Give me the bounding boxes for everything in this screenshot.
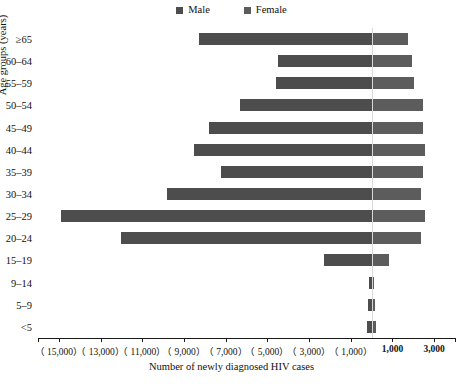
y-axis-tick-label: ≥65 bbox=[16, 34, 32, 45]
bar-female bbox=[373, 210, 425, 222]
legend-swatch-male bbox=[176, 7, 183, 14]
bar-male bbox=[194, 144, 371, 156]
bar-male bbox=[367, 321, 371, 333]
x-axis-tick bbox=[38, 338, 39, 342]
x-axis-tick bbox=[267, 338, 268, 342]
bar-row: 50–54 bbox=[38, 94, 455, 116]
x-axis-tick bbox=[455, 338, 456, 342]
bar-female bbox=[373, 277, 374, 289]
x-axis-tick-label: （ 9,000） bbox=[162, 344, 206, 358]
bar-female bbox=[373, 166, 423, 178]
legend-label-male: Male bbox=[188, 5, 210, 16]
y-axis-tick-label: 20–24 bbox=[6, 233, 32, 244]
bar-female bbox=[373, 77, 415, 89]
x-axis-tick bbox=[59, 338, 60, 342]
x-axis-tick bbox=[434, 338, 435, 342]
y-axis-tick-label: 35–39 bbox=[6, 166, 32, 177]
bar-female bbox=[373, 99, 423, 111]
x-axis-tick bbox=[184, 338, 185, 342]
y-axis-tick-label: 9–14 bbox=[11, 277, 32, 288]
bar-row: 60–64 bbox=[38, 50, 455, 72]
bar-female bbox=[373, 254, 390, 266]
bar-female bbox=[373, 144, 425, 156]
y-axis-tick-label: 30–34 bbox=[6, 189, 32, 200]
y-axis-tick-label: <5 bbox=[21, 321, 32, 332]
x-axis-title: Number of newly diagnosed HIV cases bbox=[0, 361, 463, 372]
x-axis-tick-label: （ 5,000） bbox=[245, 344, 289, 358]
bar-row: 15–19 bbox=[38, 249, 455, 271]
x-axis-tick-label: （ 11,000） bbox=[118, 344, 166, 358]
bar-male bbox=[278, 55, 372, 67]
bar-female bbox=[373, 55, 413, 67]
bar-female bbox=[373, 33, 408, 45]
x-axis-tick-label: （ 3,000） bbox=[287, 344, 331, 358]
bar-male bbox=[324, 254, 372, 266]
bar-row: 25–29 bbox=[38, 205, 455, 227]
x-axis-tick bbox=[309, 338, 310, 342]
bar-male bbox=[221, 166, 371, 178]
bar-row: 40–44 bbox=[38, 139, 455, 161]
y-axis-tick-label: 25–29 bbox=[6, 211, 32, 222]
bar-row: 45–49 bbox=[38, 117, 455, 139]
x-axis-tick-label: 3,000 bbox=[423, 344, 444, 354]
bar-row: 55–59 bbox=[38, 72, 455, 94]
legend-swatch-female bbox=[244, 7, 251, 14]
y-axis-tick-label: 50–54 bbox=[6, 100, 32, 111]
bar-rows: ≥6560–6455–5950–5445–4940–4435–3930–3425… bbox=[38, 28, 455, 338]
bar-male bbox=[276, 77, 372, 89]
y-axis-title: Age groups (years) bbox=[0, 0, 8, 115]
legend-item-male: Male bbox=[176, 5, 210, 16]
x-axis-tick bbox=[101, 338, 102, 342]
bar-male bbox=[369, 277, 372, 289]
bar-female bbox=[373, 122, 423, 134]
bar-row: 35–39 bbox=[38, 161, 455, 183]
bar-female bbox=[373, 188, 421, 200]
x-axis-tick bbox=[351, 338, 352, 342]
bar-row: <5 bbox=[38, 316, 455, 338]
bar-female bbox=[373, 299, 375, 311]
bar-male bbox=[121, 232, 371, 244]
hiv-age-sex-pyramid-chart: Male Female ≥6560–6455–5950–5445–4940–44… bbox=[0, 0, 463, 387]
legend-label-female: Female bbox=[256, 5, 287, 16]
bar-row: 5–9 bbox=[38, 294, 455, 316]
bar-row: 9–14 bbox=[38, 272, 455, 294]
x-axis-tick-label: （ 7,000） bbox=[204, 344, 248, 358]
plot-area: ≥6560–6455–5950–5445–4940–4435–3930–3425… bbox=[38, 28, 455, 338]
y-axis-tick-label: 40–44 bbox=[6, 144, 32, 155]
bar-male bbox=[199, 33, 372, 45]
bar-female bbox=[373, 232, 421, 244]
chart-legend: Male Female bbox=[0, 5, 463, 16]
x-axis-tick bbox=[392, 338, 393, 342]
y-axis-tick-label: 45–49 bbox=[6, 122, 32, 133]
y-axis-tick-label: 60–64 bbox=[6, 56, 32, 67]
bar-female bbox=[373, 321, 377, 333]
legend-item-female: Female bbox=[244, 5, 287, 16]
bar-male bbox=[209, 122, 372, 134]
bar-male bbox=[368, 299, 371, 311]
bar-male bbox=[61, 210, 372, 222]
y-axis-tick-label: 5–9 bbox=[16, 299, 32, 310]
bar-row: 20–24 bbox=[38, 227, 455, 249]
x-axis-tick-label: （ 1,000） bbox=[329, 344, 373, 358]
bar-row: ≥65 bbox=[38, 28, 455, 50]
bar-row: 30–34 bbox=[38, 183, 455, 205]
bar-male bbox=[240, 99, 371, 111]
x-axis-tick bbox=[226, 338, 227, 342]
bar-male bbox=[167, 188, 371, 200]
y-axis-tick-label: 15–19 bbox=[6, 255, 32, 266]
y-axis-tick-label: 55–59 bbox=[6, 78, 32, 89]
x-axis-tick-label: 1,000 bbox=[382, 344, 403, 354]
x-axis-tick bbox=[142, 338, 143, 342]
